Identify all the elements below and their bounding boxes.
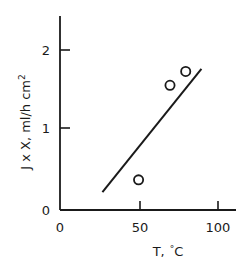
y-axis-title-main: J x X, ml/h cm: [18, 80, 33, 171]
data-point: [165, 81, 174, 90]
x-tick-label-100: 100: [206, 220, 231, 235]
x-axis-title-variable: T,: [152, 244, 165, 259]
data-point: [134, 175, 143, 184]
y-tick-labels: 2 1 0: [42, 43, 50, 218]
chart-canvas: 2 1 0 0 50 100 J x X, ml/h cm2 T,°C: [0, 0, 247, 271]
x-axis-title-unit: C: [174, 244, 183, 259]
x-tick-labels: 0 50 100: [56, 220, 231, 235]
data-point-group: [134, 67, 190, 185]
y-axis-title-superscript: 2: [17, 74, 27, 80]
x-axis-title: T,°C: [152, 244, 184, 259]
figure-container: 2 1 0 0 50 100 J x X, ml/h cm2 T,°C: [0, 0, 247, 271]
x-tick-label-50: 50: [132, 220, 149, 235]
axes-group: [60, 16, 236, 210]
x-tick-marks: [140, 201, 218, 210]
trend-line: [102, 69, 201, 192]
y-tick-marks: [60, 50, 70, 128]
y-tick-label-2: 2: [42, 43, 50, 58]
y-tick-label-1: 1: [42, 121, 50, 136]
data-point: [181, 67, 190, 76]
y-tick-label-0: 0: [42, 203, 50, 218]
y-axis-title: J x X, ml/h cm2: [17, 74, 33, 171]
y-axis-title-group: J x X, ml/h cm2: [17, 74, 33, 171]
x-tick-label-0: 0: [56, 220, 64, 235]
